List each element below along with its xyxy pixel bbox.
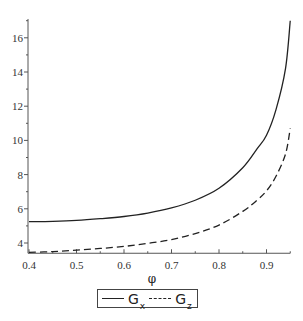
x-tick-label: 0.8 <box>212 259 226 271</box>
legend-label-gz: Gz <box>175 291 192 307</box>
legend-item-gx: Gx <box>102 291 145 307</box>
series-line-gz <box>29 128 290 252</box>
x-tick-label: 0.5 <box>70 259 84 271</box>
y-tick-label: 14 <box>12 66 24 78</box>
legend-label-gx: Gx <box>128 291 145 307</box>
y-tick-label: 10 <box>12 134 24 146</box>
axes <box>28 19 290 253</box>
x-tick-label: 0.9 <box>260 259 274 271</box>
x-tick-label: 0.4 <box>22 259 36 271</box>
solid-line-icon <box>102 298 124 299</box>
y-tick-label: 12 <box>12 100 23 112</box>
y-tick-label: 16 <box>12 32 24 44</box>
ticks: 468101214160.40.50.60.70.80.9 <box>12 21 290 272</box>
line-chart: 468101214160.40.50.60.70.80.9 φ <box>0 0 303 321</box>
y-tick-label: 4 <box>18 237 24 249</box>
x-axis-label: φ <box>148 272 156 286</box>
dashed-line-icon <box>149 298 171 299</box>
y-tick-label: 6 <box>18 203 24 215</box>
legend: Gx Gz <box>97 289 198 308</box>
series-line-gx <box>29 21 290 222</box>
x-tick-label: 0.6 <box>117 259 131 271</box>
series <box>29 21 290 253</box>
legend-item-gz: Gz <box>149 291 192 307</box>
y-tick-label: 8 <box>18 169 24 181</box>
x-tick-label: 0.7 <box>165 259 179 271</box>
